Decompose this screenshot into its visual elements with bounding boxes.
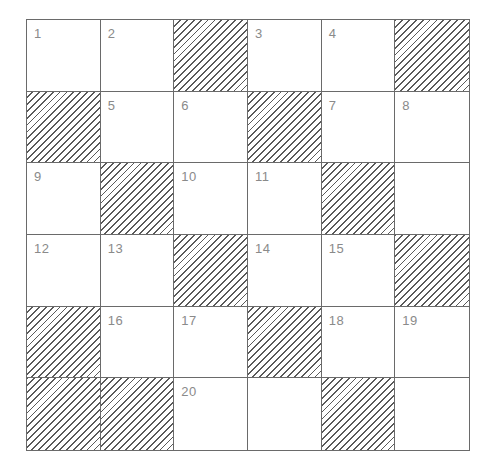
answer-cell[interactable]: 12 [27, 235, 101, 307]
clue-number: 12 [34, 241, 49, 256]
clue-number: 4 [329, 26, 337, 41]
answer-cell[interactable]: 3 [248, 20, 322, 92]
answer-cell[interactable]: 17 [174, 307, 248, 379]
blocked-cell [248, 307, 322, 379]
blocked-cell [101, 378, 175, 450]
answer-cell[interactable] [395, 378, 469, 450]
blocked-cell [395, 235, 469, 307]
blocked-cell [101, 163, 175, 235]
blocked-cell [322, 378, 396, 450]
answer-cell[interactable]: 2 [101, 20, 175, 92]
clue-number: 17 [181, 313, 196, 328]
blocked-cell [322, 163, 396, 235]
clue-number: 19 [402, 313, 417, 328]
clue-number: 14 [255, 241, 270, 256]
answer-cell[interactable]: 6 [174, 92, 248, 164]
clue-number: 13 [108, 241, 123, 256]
answer-cell[interactable]: 19 [395, 307, 469, 379]
clue-number: 16 [108, 313, 123, 328]
answer-cell[interactable]: 20 [174, 378, 248, 450]
clue-number: 1 [34, 26, 42, 41]
answer-cell[interactable]: 8 [395, 92, 469, 164]
answer-cell[interactable]: 13 [101, 235, 175, 307]
clue-number: 6 [181, 98, 189, 113]
answer-cell[interactable] [248, 378, 322, 450]
answer-cell[interactable] [395, 163, 469, 235]
answer-cell[interactable]: 18 [322, 307, 396, 379]
clue-number: 2 [108, 26, 116, 41]
answer-cell[interactable]: 11 [248, 163, 322, 235]
answer-cell[interactable]: 5 [101, 92, 175, 164]
answer-cell[interactable]: 15 [322, 235, 396, 307]
blocked-cell [174, 235, 248, 307]
answer-cell[interactable]: 16 [101, 307, 175, 379]
answer-cell[interactable]: 14 [248, 235, 322, 307]
clue-number: 20 [181, 384, 196, 399]
clue-number: 7 [329, 98, 337, 113]
blocked-cell [248, 92, 322, 164]
clue-number: 3 [255, 26, 263, 41]
clue-number: 15 [329, 241, 344, 256]
blocked-cell [174, 20, 248, 92]
answer-cell[interactable]: 9 [27, 163, 101, 235]
blocked-cell [27, 307, 101, 379]
clue-number: 11 [255, 169, 270, 184]
clue-number: 5 [108, 98, 116, 113]
answer-cell[interactable]: 4 [322, 20, 396, 92]
answer-cell[interactable]: 10 [174, 163, 248, 235]
answer-cell[interactable]: 1 [27, 20, 101, 92]
clue-number: 18 [329, 313, 344, 328]
crossword-grid: 1234567891011121314151617181920 [26, 19, 470, 451]
blocked-cell [395, 20, 469, 92]
clue-number: 8 [402, 98, 410, 113]
blocked-cell [27, 92, 101, 164]
blocked-cell [27, 378, 101, 450]
clue-number: 10 [181, 169, 196, 184]
answer-cell[interactable]: 7 [322, 92, 396, 164]
clue-number: 9 [34, 169, 42, 184]
